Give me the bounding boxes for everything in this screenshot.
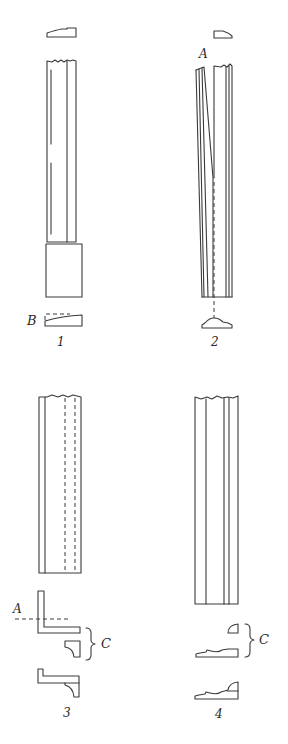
callout-a-panel2: A [199, 48, 208, 60]
panel2-top-profile [214, 31, 232, 38]
callout-c-panel3: C [101, 637, 111, 650]
panel-4-number: 4 [215, 708, 223, 720]
callout-a-panel3: A [13, 603, 22, 615]
panel-2 [196, 31, 232, 328]
panel3-brace [86, 628, 95, 660]
panel-1-number: 1 [57, 336, 65, 348]
callout-c-panel4: C [259, 633, 269, 646]
panel4-strip [195, 396, 238, 604]
panel4-brace [245, 624, 254, 657]
panel1-top-profile [47, 28, 76, 37]
panel3-l-profile [38, 591, 80, 633]
callout-b: B [27, 314, 37, 327]
panel-4 [195, 396, 254, 699]
panel1-bottom-profile [45, 315, 82, 326]
panel-3-number: 3 [63, 707, 71, 719]
diagram-canvas [0, 0, 288, 744]
panel-1 [45, 28, 82, 326]
panel4-quarter-round [228, 624, 238, 633]
panel3-cove-piece [65, 641, 80, 657]
panel4-base-profile [196, 649, 238, 657]
panel-3 [15, 395, 95, 697]
panel2-bottom-profile [202, 318, 232, 328]
panel-2-number: 2 [211, 336, 219, 348]
panel1-block [46, 244, 82, 297]
